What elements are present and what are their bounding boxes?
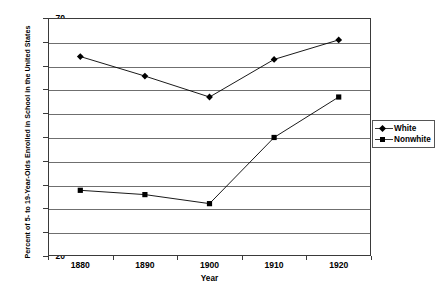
- x-axis-tick-label: 1890: [125, 260, 165, 270]
- series-nonwhite: [78, 94, 342, 206]
- x-axis-tick-label: 1920: [319, 260, 359, 270]
- square-marker-icon: [375, 134, 393, 145]
- x-axis-tick-mark: [113, 256, 114, 260]
- y-axis-title: Percent of 5- to 19-Year-Olds Enrolled i…: [20, 16, 36, 268]
- x-axis-tick-label: 1880: [60, 260, 100, 270]
- legend-label: White: [393, 123, 416, 134]
- legend-item-nonwhite[interactable]: Nonwhite: [375, 134, 431, 145]
- series-line: [80, 97, 338, 204]
- series-white: [77, 36, 342, 100]
- diamond-marker-icon: [206, 94, 213, 101]
- x-axis-title: Year: [48, 274, 371, 283]
- square-marker-icon: [142, 192, 147, 197]
- legend-item-white[interactable]: White: [375, 123, 431, 134]
- x-axis-tick-label: 1910: [254, 260, 294, 270]
- series-line: [80, 40, 338, 97]
- legend: White Nonwhite: [372, 120, 435, 148]
- diamond-marker-icon: [142, 73, 149, 80]
- x-axis-tick-mark: [242, 256, 243, 260]
- diamond-marker-icon: [271, 56, 278, 63]
- square-marker-icon: [336, 94, 341, 99]
- diamond-marker-icon: [335, 36, 342, 43]
- line-chart: Percent of 5- to 19-Year-Olds Enrolled i…: [0, 0, 439, 302]
- x-axis-tick-mark: [177, 256, 178, 260]
- square-marker-icon: [272, 135, 277, 140]
- x-axis-tick-mark: [48, 256, 49, 260]
- x-axis-tick-label: 1900: [190, 260, 230, 270]
- square-marker-icon: [78, 188, 83, 193]
- x-axis-tick-mark: [371, 256, 372, 260]
- x-axis-tick-mark: [306, 256, 307, 260]
- series-layer: [48, 18, 371, 256]
- square-marker-icon: [207, 201, 212, 206]
- diamond-marker-icon: [375, 123, 393, 134]
- diamond-marker-icon: [77, 53, 84, 60]
- legend-label: Nonwhite: [393, 134, 431, 145]
